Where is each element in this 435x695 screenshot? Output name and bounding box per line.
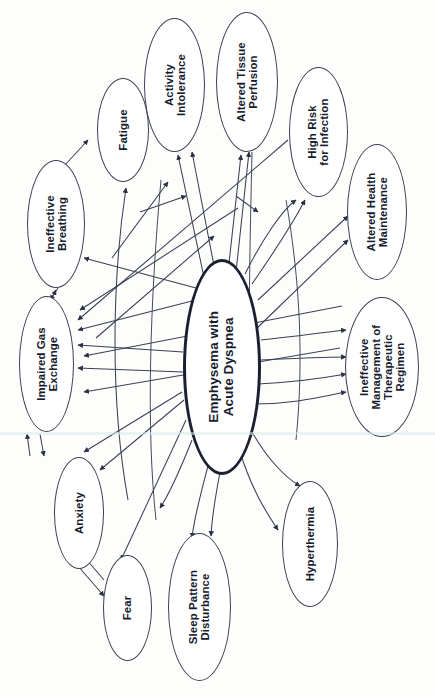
edge-central-fear-1	[160, 440, 192, 508]
node-fear-label: Fear	[121, 596, 133, 620]
edge-central-sleep-pattern-2	[192, 466, 208, 538]
edge-central-activity-intolerance-2	[192, 152, 216, 276]
node-impaired-gas-exchange[interactable]: Impaired Gas Exchange	[19, 296, 74, 432]
node-hyperthermia[interactable]: Hyperthermia	[282, 481, 338, 607]
node-hyperthermia-label: Hyperthermia	[304, 507, 316, 582]
node-sleep-pattern-disturbance[interactable]: Sleep Pattern Disturbance	[168, 533, 231, 681]
edge-central-ineffective-management-1	[261, 330, 346, 340]
edge-impaired-gas-anxiety-b	[27, 434, 30, 456]
edge-central-impaired-gas-1	[78, 345, 183, 352]
edge-left-stub	[140, 196, 186, 212]
node-altered-tissue-perfusion-label: Altered Tissue Perfusion	[235, 42, 259, 122]
edge-central-impaired-gas-2	[78, 368, 183, 372]
node-fear[interactable]: Fear	[103, 555, 152, 661]
node-activity-intolerance[interactable]: Activity Intolerance	[144, 18, 205, 152]
edge-sleep-pattern-fatigue-curve	[115, 188, 128, 500]
node-fatigue[interactable]: Fatigue	[97, 78, 149, 182]
concept-map-page: Emphysema with Acute Dyspnea Ineffective…	[0, 0, 435, 695]
node-impaired-gas-exchange-label: Impaired Gas Exchange	[34, 327, 58, 400]
node-anxiety-label: Anxiety	[73, 492, 85, 534]
node-high-risk-for-infection-label: High Risk for Infection	[306, 98, 330, 165]
edge-central-high-risk-infection-2	[252, 200, 305, 284]
edge-anxiety-fear-a	[78, 566, 104, 596]
node-ineffective-management-label: Ineffective Management of Therapeutic Re…	[358, 325, 406, 410]
node-ineffective-breathing[interactable]: Ineffective Breathing	[27, 160, 85, 288]
edge-central-altered-health-maintenance-2	[255, 240, 348, 330]
node-central[interactable]: Emphysema with Acute Dyspnea	[183, 259, 261, 475]
edge-central-ineffective-management-3	[258, 374, 346, 384]
edge-central-hyperthermia-2	[240, 452, 278, 530]
node-anxiety[interactable]: Anxiety	[54, 457, 104, 569]
edge-central-hyperthermia-1	[252, 432, 300, 486]
node-altered-health-maintenance[interactable]: Altered Health Maintenance	[347, 144, 407, 280]
node-ineffective-management[interactable]: Ineffective Management of Therapeutic Re…	[345, 297, 419, 437]
node-fatigue-label: Fatigue	[117, 109, 129, 150]
edge-ineffective-breathing-fatigue	[64, 140, 88, 166]
node-sleep-pattern-disturbance-label: Sleep Pattern Disturbance	[187, 570, 211, 644]
node-ineffective-breathing-label: Ineffective Breathing	[44, 195, 68, 252]
edge-impaired-gas-anxiety-a	[40, 434, 44, 456]
edge-central-ineffective-breathing	[84, 258, 196, 288]
node-activity-intolerance-label: Activity Intolerance	[162, 54, 186, 116]
edge-central-altered-tissue-perfusion-2	[236, 152, 249, 272]
node-central-label: Emphysema with Acute Dyspnea	[207, 311, 237, 423]
node-high-risk-for-infection[interactable]: High Risk for Infection	[289, 67, 348, 197]
edge-tissue-perfusion-stub	[236, 196, 258, 212]
node-altered-health-maintenance-label: Altered Health Maintenance	[365, 173, 389, 252]
node-altered-tissue-perfusion[interactable]: Altered Tissue Perfusion	[216, 12, 278, 152]
guide-curve-right	[286, 200, 300, 440]
